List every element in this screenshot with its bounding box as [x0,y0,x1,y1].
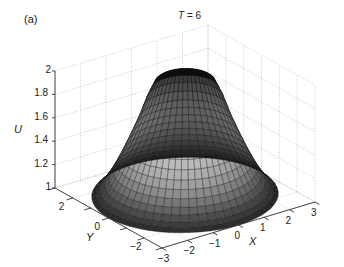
x-tick-label: 2 [286,216,292,226]
z-tick-label: 1.4 [34,135,48,145]
y-tick-label: 0 [95,222,101,232]
y-tick-label: −2 [130,242,141,252]
z-tick-label: 1.2 [34,159,48,169]
title-value: = 6 [184,10,201,21]
y-axis-label: Y [86,232,93,243]
x-tick-label: 3 [311,208,317,218]
y-tick-label: 2 [59,202,65,212]
z-tick-label: 1.8 [34,88,48,98]
z-tick-label: 1.6 [34,112,48,122]
x-tick-label: −2 [184,246,195,256]
surface-plot [0,0,344,267]
x-tick-label: −1 [209,239,220,249]
z-tick-label: 2 [45,65,51,75]
panel-label: (a) [24,14,37,25]
x-tick-label: −3 [158,254,169,264]
x-tick-label: 0 [235,231,241,241]
z-axis-label: U [14,124,22,135]
z-tick-label: 1 [45,182,51,192]
surface-mesh [92,68,278,232]
x-tick-label: 1 [260,223,266,233]
plot-title: T = 6 [178,11,201,21]
x-axis-label: X [249,236,256,247]
